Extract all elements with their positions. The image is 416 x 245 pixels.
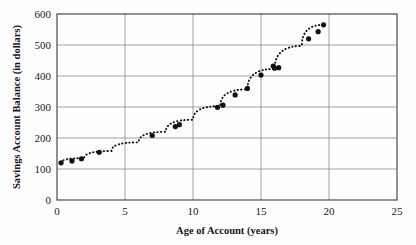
- y-axis-title: Savings Account Balance (in dollars): [11, 25, 23, 189]
- data-point: [233, 92, 238, 97]
- data-point: [58, 160, 63, 165]
- y-tick-label: 200: [35, 132, 52, 144]
- data-point: [245, 86, 250, 91]
- data-point: [215, 105, 220, 110]
- y-tick-label: 300: [35, 101, 52, 113]
- chart-background: [0, 0, 416, 245]
- data-point: [177, 122, 182, 127]
- x-tick-label: 10: [188, 205, 200, 217]
- x-tick-label: 5: [122, 205, 128, 217]
- data-point: [97, 150, 102, 155]
- data-point: [306, 36, 311, 41]
- x-tick-label: 15: [256, 205, 268, 217]
- x-axis-title: Age of Account (years): [176, 225, 278, 237]
- savings-account-scatter-chart: 0100200300400500600 0510152025 Age of Ac…: [0, 0, 416, 245]
- data-point: [69, 158, 74, 163]
- y-tick-label: 400: [35, 70, 52, 82]
- data-point: [276, 65, 281, 70]
- chart-svg: 0100200300400500600 0510152025 Age of Ac…: [0, 0, 416, 245]
- x-tick-label: 0: [54, 205, 60, 217]
- data-point: [79, 156, 84, 161]
- y-tick-label: 0: [46, 194, 52, 206]
- data-point: [150, 133, 155, 138]
- y-tick-label: 500: [35, 39, 52, 51]
- data-point: [258, 72, 263, 77]
- x-tick-label: 25: [392, 205, 404, 217]
- data-point: [220, 103, 225, 108]
- data-point: [321, 22, 326, 27]
- y-tick-label: 600: [35, 8, 52, 20]
- x-tick-label: 20: [324, 205, 336, 217]
- data-point: [316, 29, 321, 34]
- y-tick-label: 100: [35, 163, 52, 175]
